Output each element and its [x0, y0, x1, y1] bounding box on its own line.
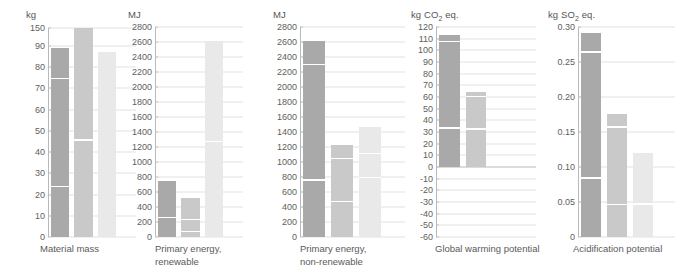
- bar-segment-divider: [607, 126, 627, 127]
- bar: [158, 181, 176, 237]
- bar-segment-divider: [51, 186, 69, 187]
- y-axis-tick-label: 10: [35, 211, 48, 220]
- plot-area: 0200400600800100012001400160018002000220…: [300, 27, 405, 237]
- bar-segment-divider: [205, 141, 223, 142]
- y-axis-tick-mark: [300, 27, 303, 28]
- y-axis-tick-mark: [155, 102, 158, 103]
- y-axis-tick-label: 90: [35, 42, 48, 51]
- y-axis-tick-label: 0: [428, 163, 436, 172]
- y-axis-tick-label: 150: [30, 24, 48, 33]
- y-axis-unit-label: kg CO2 eq.: [411, 10, 459, 22]
- bar-segment-divider: [466, 96, 487, 97]
- gridline: [156, 132, 243, 133]
- bar-segment-divider: [633, 203, 653, 204]
- bar: [359, 127, 381, 237]
- y-axis-tick-label: 30: [35, 169, 48, 178]
- y-axis-tick-label: 30: [423, 128, 436, 137]
- plot-area: 00.050.100.150.200.250.30: [578, 27, 675, 237]
- y-axis-tick-label: 0.25: [557, 58, 578, 67]
- y-axis-tick-label: 400: [282, 203, 300, 212]
- bar: [331, 145, 353, 237]
- y-axis-tick-label: -20: [420, 186, 436, 195]
- y-axis-tick-label: 120: [418, 23, 436, 32]
- y-axis-tick-mark: [436, 225, 439, 226]
- y-axis-tick-label: 2200: [132, 68, 155, 77]
- bar: [607, 114, 627, 237]
- y-axis-tick-label: 2600: [132, 38, 155, 47]
- bar: [98, 52, 116, 237]
- gridline: [437, 237, 536, 238]
- bar: [181, 198, 199, 237]
- y-axis-unit-label: MJ: [273, 10, 286, 20]
- bar: [51, 48, 69, 237]
- y-axis-tick-mark: [436, 237, 439, 238]
- y-axis-tick-label: 0: [147, 233, 155, 242]
- y-axis-tick-label: 60: [35, 105, 48, 114]
- y-axis-tick-label: 50: [35, 126, 48, 135]
- y-axis-tick-label: -50: [420, 221, 436, 230]
- bar: [205, 41, 223, 238]
- y-axis-tick-mark: [155, 162, 158, 163]
- y-axis-tick-mark: [155, 42, 158, 43]
- bar-segment-divider: [303, 64, 325, 65]
- y-axis-tick-label: 2800: [277, 23, 300, 32]
- y-axis-tick-mark: [436, 190, 439, 191]
- y-axis-tick-label: 1600: [132, 113, 155, 122]
- y-axis-tick-mark: [155, 57, 158, 58]
- y-axis-tick-label: 0: [570, 233, 578, 242]
- bar-segment-divider: [181, 231, 199, 232]
- gridline: [437, 178, 536, 179]
- gridline: [156, 117, 243, 118]
- gridline: [156, 177, 243, 178]
- y-axis-tick-label: 0: [40, 233, 48, 242]
- y-axis-tick-label: 0.20: [557, 93, 578, 102]
- bar-segment-divider: [581, 51, 601, 52]
- y-axis-unit-label: kg: [26, 10, 36, 20]
- y-axis-tick-label: 200: [137, 218, 155, 227]
- y-axis-tick-mark: [155, 87, 158, 88]
- y-axis-tick-label: 1200: [132, 143, 155, 152]
- y-axis-tick-label: 800: [137, 173, 155, 182]
- y-axis-tick-label: -60: [420, 233, 436, 242]
- y-axis-tick-label: 2000: [277, 83, 300, 92]
- bar: [633, 153, 653, 237]
- y-axis-tick-label: 20: [423, 139, 436, 148]
- bar-segment-divider: [74, 139, 92, 140]
- plot-area: -60-50-40-30-20-100102030405060708090100…: [436, 27, 536, 237]
- bar-segment-divider: [158, 217, 176, 218]
- y-axis-tick-mark: [155, 117, 158, 118]
- y-axis-tick-label: 1600: [277, 113, 300, 122]
- y-axis-tick-label: 2600: [277, 38, 300, 47]
- bar-segment-divider: [359, 153, 381, 154]
- y-axis-tick-label: 600: [137, 188, 155, 197]
- y-axis-tick-label: 90: [423, 58, 436, 67]
- y-axis-tick-label: 1400: [277, 128, 300, 137]
- y-axis-tick-label: 0: [292, 233, 300, 242]
- y-axis-tick-label: 60: [423, 93, 436, 102]
- panel-caption: Primary energy, non-renewable: [300, 243, 440, 268]
- gridline: [156, 72, 243, 73]
- y-axis-tick-label: 1800: [277, 98, 300, 107]
- y-axis-tick-label: 10: [423, 151, 436, 160]
- bar-segment-divider: [607, 204, 627, 205]
- y-axis-tick-label: 2400: [277, 53, 300, 62]
- bar-segment-divider: [303, 179, 325, 180]
- y-axis-tick-mark: [578, 27, 581, 28]
- gridline: [579, 27, 675, 28]
- bar-segment-divider: [439, 127, 460, 128]
- bar: [74, 28, 92, 237]
- bar: [303, 41, 325, 238]
- bar-segment-divider: [331, 158, 353, 159]
- gridline: [156, 27, 243, 28]
- y-axis-tick-mark: [155, 147, 158, 148]
- y-axis-tick-label: 0.15: [557, 128, 578, 137]
- bar: [466, 92, 487, 167]
- bar-segment-divider: [331, 201, 353, 202]
- y-axis-tick-mark: [48, 28, 51, 29]
- bar-segment-divider: [181, 219, 199, 220]
- y-axis-tick-label: 0.10: [557, 163, 578, 172]
- y-axis-tick-label: 1200: [277, 143, 300, 152]
- bar: [439, 35, 460, 167]
- y-axis-tick-label: 1400: [132, 128, 155, 137]
- y-axis-tick-label: 0.30: [557, 23, 578, 32]
